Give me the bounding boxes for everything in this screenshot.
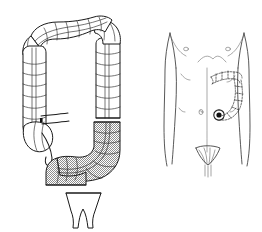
nipple-left <box>226 47 231 51</box>
large-intestine-diagram <box>23 16 121 228</box>
costal-margin <box>198 56 226 62</box>
stoma-site <box>214 110 224 120</box>
illustration-canvas <box>0 0 262 232</box>
abdominal-torso-diagram <box>164 33 250 177</box>
cecum <box>23 121 52 152</box>
umbilicus <box>199 109 203 114</box>
pubic-region <box>196 146 220 177</box>
ascending-colon <box>96 38 120 118</box>
rectum-anal-canal <box>66 193 101 228</box>
sigmoid-colon <box>46 122 120 185</box>
chest-landmarks <box>179 47 236 152</box>
figure-svg <box>0 0 262 232</box>
nipple-right <box>184 47 189 51</box>
